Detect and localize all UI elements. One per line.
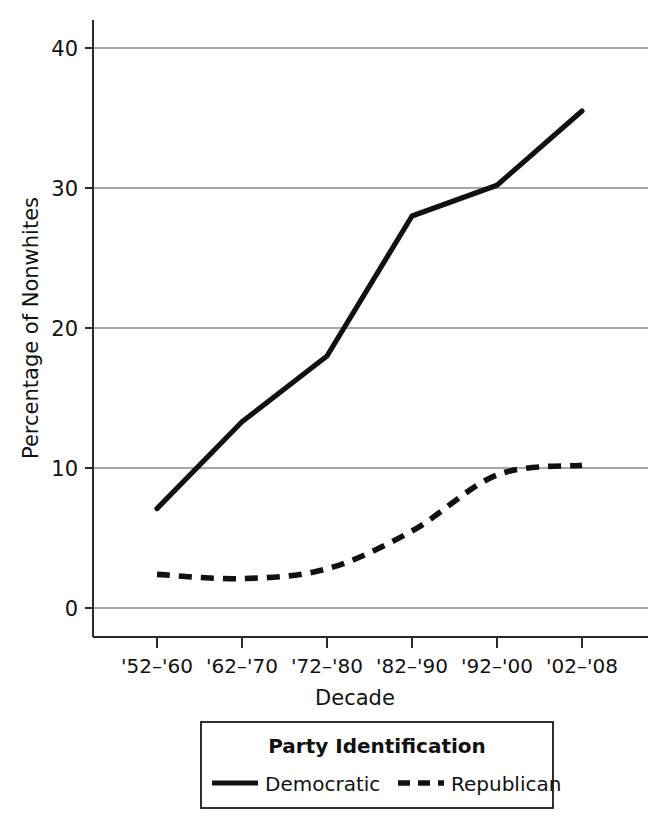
y-tick-label-40: 40	[51, 37, 78, 61]
y-tick-label-10: 10	[51, 457, 78, 481]
legend-title: Party Identification	[268, 734, 486, 758]
chart-figure: 40 30 20 10 0 '52–'60 '62–'70 '72–'80 '8…	[0, 0, 669, 823]
x-tick-label-2: '72–'80	[291, 654, 363, 678]
x-tick-label-1: '62–'70	[206, 654, 278, 678]
x-tick-label-0: '52–'60	[121, 654, 193, 678]
x-tick-label-5: '02–'08	[546, 654, 618, 678]
y-tick-label-0: 0	[65, 597, 78, 621]
line-chart: 40 30 20 10 0 '52–'60 '62–'70 '72–'80 '8…	[0, 0, 669, 823]
series-line-republican	[157, 465, 582, 579]
y-tick-label-20: 20	[51, 317, 78, 341]
y-tick-labels: 40 30 20 10 0	[51, 37, 78, 621]
y-tick-label-30: 30	[51, 177, 78, 201]
legend-label-democratic: Democratic	[265, 772, 380, 796]
x-tick-label-3: '82–'90	[376, 654, 448, 678]
y-axis-title: Percentage of Nonwhites	[19, 197, 43, 459]
x-tick-label-4: '92–'00	[461, 654, 533, 678]
x-tick-marks	[157, 637, 582, 648]
series-line-democratic	[157, 111, 582, 509]
legend-label-republican: Republican	[451, 772, 561, 796]
x-axis-title: Decade	[315, 686, 395, 710]
y-tick-marks	[85, 48, 93, 608]
chart-legend: Party Identification Democratic Republic…	[201, 722, 561, 808]
data-series	[157, 111, 582, 579]
gridlines	[93, 48, 648, 608]
x-tick-labels: '52–'60 '62–'70 '72–'80 '82–'90 '92–'00 …	[121, 654, 618, 678]
